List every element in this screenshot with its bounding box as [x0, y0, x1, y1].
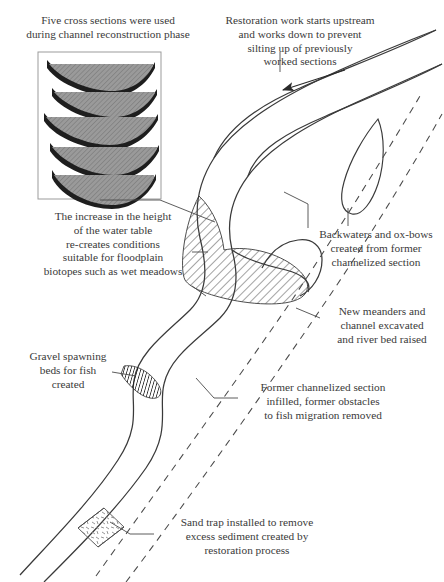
cross-section-5: [52, 170, 156, 209]
flow-direction-arrow: [283, 70, 345, 90]
river-restoration-diagram: Five cross sections were used during cha…: [0, 0, 444, 582]
caption-backwaters: Backwaters and ox-bows created from form…: [312, 228, 440, 269]
leader-new-meanders: [296, 308, 320, 318]
leader-former-channel: [196, 378, 238, 398]
upper-loop-inner: [248, 64, 442, 176]
caption-water-table: The increase in the height of the water …: [18, 210, 208, 279]
diagram-canvas: [0, 0, 444, 582]
leader-backwaters-a: [284, 192, 308, 228]
caption-sand-trap: Sand trap installed to remove excess sed…: [156, 516, 338, 557]
channelized-line-b: [126, 114, 442, 582]
caption-new-meanders: New meanders and channel excavated and r…: [322, 305, 442, 346]
cross-section-inset: [38, 52, 161, 209]
caption-former-channel: Former channelized section infilled, for…: [240, 381, 406, 422]
caption-restoration-work: Restoration work starts upstream and wor…: [204, 14, 396, 69]
gravel-spawning-bed: [121, 366, 161, 399]
caption-gravel-beds: Gravel spawning beds for fish created: [14, 350, 122, 391]
caption-cross-sections: Five cross sections were used during cha…: [8, 14, 208, 42]
